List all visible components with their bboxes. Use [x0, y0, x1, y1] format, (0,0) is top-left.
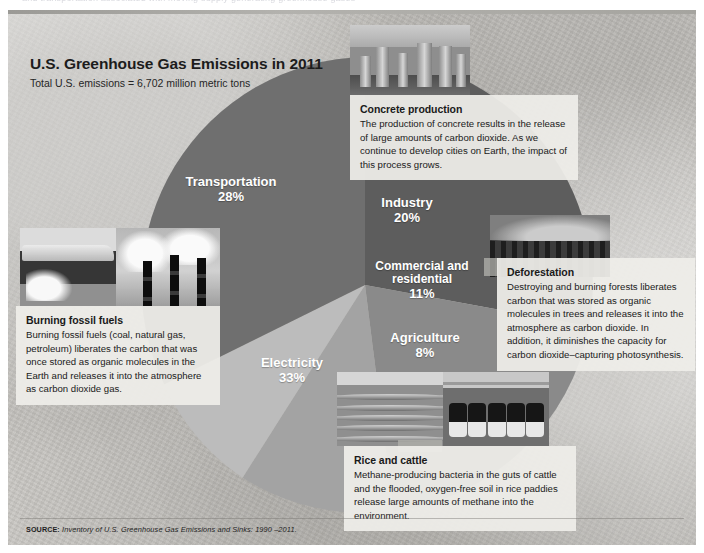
smokestack-2	[170, 255, 179, 306]
page-title: U.S. Greenhouse Gas Emissions in 2011	[30, 55, 323, 73]
concrete-photo-silo-2	[376, 47, 389, 86]
cow-4	[507, 403, 525, 437]
source-divider	[20, 518, 684, 519]
smoke-cloud-2	[160, 228, 220, 265]
rice-terrace-2	[337, 405, 443, 411]
cow-3	[488, 403, 506, 437]
slice-label-industry: Industry 20%	[352, 196, 462, 225]
deforestation-connector-tab	[484, 258, 498, 276]
source-label: SOURCE:	[26, 525, 60, 534]
cow-5	[526, 403, 544, 437]
callout-rice-cattle-title: Rice and cattle	[354, 454, 566, 466]
callout-rice-cattle-body: Methane-producing bacteria in the guts o…	[354, 468, 566, 522]
slice-label-agriculture-name: Agriculture	[370, 331, 480, 346]
callout-deforestation-title: Deforestation	[507, 266, 685, 278]
concrete-photo-silo-3	[398, 53, 408, 87]
slice-label-transportation-name: Transportation	[156, 175, 306, 190]
source-line: SOURCE: Inventory of U.S. Greenhouse Gas…	[26, 525, 297, 534]
cattle-photo	[443, 372, 549, 446]
slice-label-agriculture: Agriculture 8%	[370, 331, 480, 360]
concrete-photo-silo-1	[360, 56, 371, 87]
title-block: U.S. Greenhouse Gas Emissions in 2011 To…	[30, 55, 323, 89]
cow-2	[468, 403, 486, 437]
callout-concrete-title: Concrete production	[360, 103, 568, 115]
slice-label-agriculture-value: 8%	[370, 346, 480, 361]
smokestack-3	[197, 258, 206, 306]
source-citation: Inventory of U.S. Greenhouse Gas Emissio…	[62, 525, 297, 534]
clipped-top-text: and transportation associated with movin…	[0, 0, 704, 9]
cow-1	[449, 403, 467, 437]
rice-terrace-4	[337, 425, 443, 431]
slice-label-transportation-value: 28%	[156, 190, 306, 205]
slice-label-industry-name: Industry	[352, 196, 462, 211]
smokestack-1	[143, 261, 152, 306]
page-subtitle: Total U.S. emissions = 6,702 million met…	[30, 77, 323, 89]
concrete-photo-sky	[350, 25, 470, 47]
car-exhaust-photo	[20, 228, 116, 306]
slice-label-commercial-residential: Commercial and residential 11%	[360, 260, 484, 301]
car-bumper	[22, 245, 114, 261]
callout-fossil-fuels-body: Burning fossil fuels (coal, natural gas,…	[26, 328, 210, 396]
cattle-fence	[443, 382, 549, 385]
slice-label-electricity-value: 33%	[228, 371, 356, 386]
callout-deforestation: Deforestation Destroying and burning for…	[497, 258, 695, 371]
slice-label-electricity: Electricity 33%	[228, 356, 356, 385]
infographic-page: and transportation associated with movin…	[0, 0, 704, 553]
slice-label-industry-value: 20%	[352, 211, 462, 226]
callout-fossil-fuels-title: Burning fossil fuels	[26, 314, 210, 326]
slice-label-transportation: Transportation 28%	[156, 175, 306, 204]
rice-terrace-3	[337, 415, 443, 421]
callout-burning-fossil-fuels: Burning fossil fuels Burning fossil fuel…	[16, 306, 220, 405]
exhaust-smoke	[26, 269, 72, 302]
callout-deforestation-body: Destroying and burning forests liberates…	[507, 280, 685, 362]
concrete-photo-silo-5	[439, 46, 452, 87]
rice-terrace-1	[337, 394, 443, 400]
slice-label-electricity-name: Electricity	[228, 356, 356, 371]
concrete-plant-photo	[350, 25, 470, 95]
concrete-photo-silo-6	[456, 54, 466, 86]
smokestacks-photo	[116, 228, 220, 306]
callout-concrete-production: Concrete production The production of co…	[350, 95, 578, 180]
slice-label-commercial-residential-value: 11%	[360, 287, 484, 302]
slice-label-commercial-residential-name: Commercial and residential	[360, 260, 484, 287]
callout-concrete-body: The production of concrete results in th…	[360, 117, 568, 171]
concrete-photo-silo-4	[417, 43, 432, 86]
